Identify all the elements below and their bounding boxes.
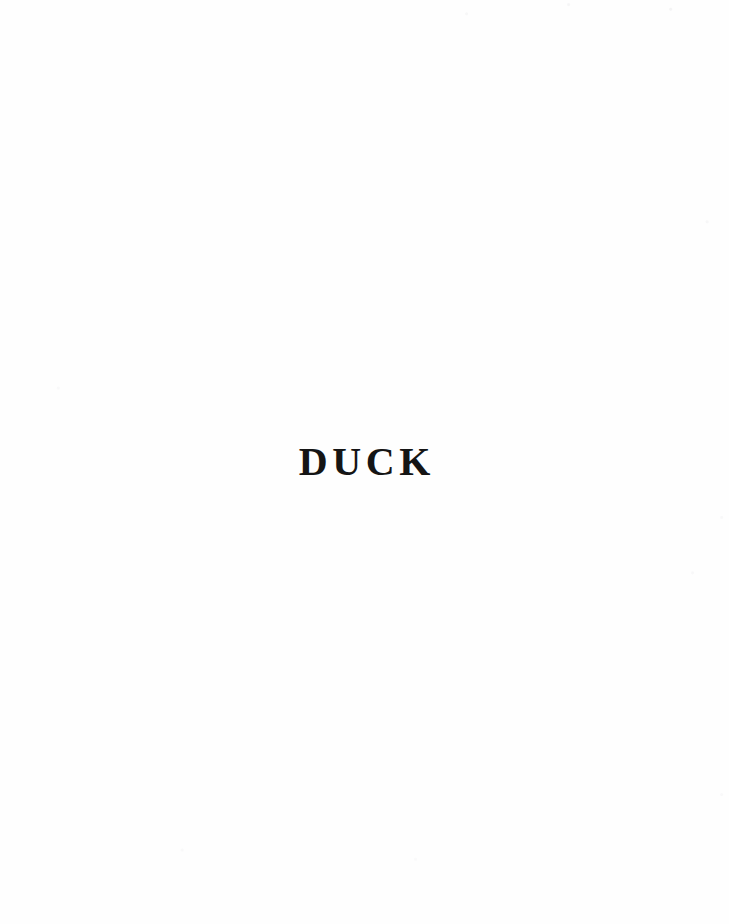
page-title: DUCK xyxy=(294,442,435,482)
title-block: DUCK xyxy=(0,440,729,484)
lower-blank-margin xyxy=(0,484,729,924)
scanned-book-page: DUCK xyxy=(0,0,729,924)
upper-blank-margin xyxy=(0,0,729,440)
